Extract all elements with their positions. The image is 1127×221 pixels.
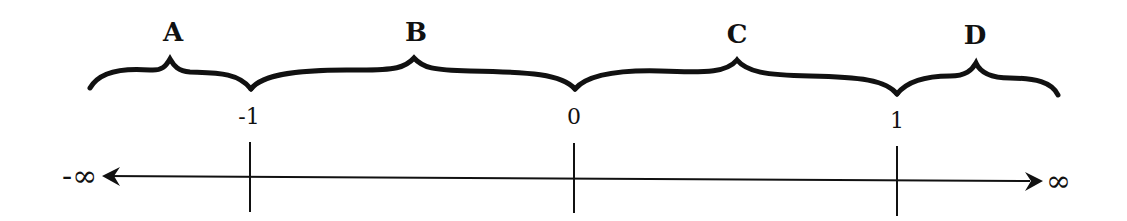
region-label-c: C (727, 19, 748, 49)
tick-label-neg1: -1 (238, 104, 259, 129)
neg-infinity-label: -∞ (62, 158, 97, 193)
region-label-b: B (405, 17, 427, 47)
axis-line (104, 176, 1030, 181)
brace-region-d (897, 63, 1058, 95)
brace-region-a (90, 59, 251, 89)
brace-region-c (575, 60, 897, 94)
region-label-d: D (964, 20, 987, 50)
number-line-diagram: A B C D -1 0 1 -∞ ∞ (0, 0, 1127, 221)
region-label-a: A (162, 17, 184, 47)
pos-infinity-label: ∞ (1046, 163, 1071, 198)
brace-region-b (251, 58, 575, 89)
tick-label-0: 0 (567, 104, 581, 129)
tick-label-1: 1 (890, 108, 904, 133)
